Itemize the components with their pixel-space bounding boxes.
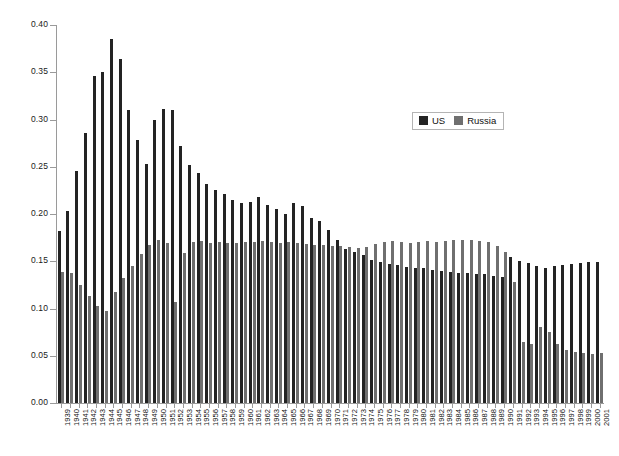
bar-russia-1988 <box>487 242 490 403</box>
x-axis-tick-label-1972: 1972 <box>351 409 359 426</box>
bar-group <box>58 25 67 403</box>
bar-us-1974 <box>362 255 365 403</box>
bar-group <box>579 25 588 403</box>
x-axis-tick-label-1965: 1965 <box>290 409 298 426</box>
bar-us-2000 <box>587 262 590 403</box>
bar-group <box>336 25 345 403</box>
bar-us-1965 <box>284 214 287 403</box>
bar-us-1981 <box>422 268 425 403</box>
y-axis-tick-label: 0.15 <box>0 256 48 266</box>
bar-russia-1946 <box>122 278 125 403</box>
x-axis-tick <box>400 404 401 408</box>
bar-russia-1948 <box>140 254 143 403</box>
legend-label-us: US <box>432 116 445 126</box>
x-axis-tick-label-1996: 1996 <box>559 409 567 426</box>
bar-russia-1942 <box>88 296 91 403</box>
bar-us-1990 <box>501 277 504 403</box>
x-axis-tick <box>313 404 314 408</box>
x-axis-tick <box>261 404 262 408</box>
bar-russia-1940 <box>70 273 73 403</box>
bar-russia-1952 <box>174 302 177 403</box>
bar-group <box>440 25 449 403</box>
x-axis-tick <box>426 404 427 408</box>
bar-group <box>527 25 536 403</box>
x-axis-tick-label-1964: 1964 <box>281 409 289 426</box>
bar-us-1953 <box>179 146 182 403</box>
bar-group <box>179 25 188 403</box>
x-axis-tick <box>322 404 323 408</box>
y-axis-tick <box>50 72 56 73</box>
bar-us-1999 <box>579 263 582 403</box>
x-axis-tick <box>504 404 505 408</box>
bar-us-1949 <box>145 164 148 403</box>
x-axis-tick <box>582 404 583 408</box>
bar-group <box>431 25 440 403</box>
y-axis-tick-label-text: 0.05 <box>4 351 48 360</box>
bar-russia-1987 <box>478 241 481 403</box>
x-axis-tick-label-1984: 1984 <box>455 409 463 426</box>
bar-group <box>205 25 214 403</box>
x-axis-tick <box>495 404 496 408</box>
bar-russia-2001 <box>600 353 603 403</box>
bar-us-1942 <box>84 133 87 403</box>
x-axis-tick <box>61 404 62 408</box>
bar-russia-1984 <box>452 240 455 403</box>
bar-russia-1994 <box>539 327 542 403</box>
bar-group <box>414 25 423 403</box>
x-axis-tick <box>565 404 566 408</box>
y-axis-tick-label: 0.20 <box>0 209 48 219</box>
bar-group <box>275 25 284 403</box>
bar-russia-1950 <box>157 240 160 403</box>
legend-entry-russia: Russia <box>454 116 496 126</box>
bar-group <box>509 25 518 403</box>
bar-russia-1981 <box>426 241 429 403</box>
bar-russia-1965 <box>287 242 290 403</box>
bar-russia-1977 <box>391 241 394 403</box>
x-axis-tick-label-1951: 1951 <box>169 409 177 426</box>
bar-russia-1959 <box>235 243 238 403</box>
bar-us-1959 <box>231 200 234 403</box>
bar-group <box>171 25 180 403</box>
bar-us-1979 <box>405 267 408 403</box>
x-axis-tick-label-1942: 1942 <box>90 409 98 426</box>
x-axis-tick-label-1983: 1983 <box>446 409 454 426</box>
y-axis-tick-label: 0.10 <box>0 304 48 314</box>
bar-us-1956 <box>205 184 208 403</box>
y-axis-tick <box>50 261 56 262</box>
bar-us-1964 <box>275 209 278 403</box>
bar-russia-1945 <box>114 292 117 404</box>
bar-us-1988 <box>483 274 486 403</box>
bar-us-1961 <box>249 202 252 403</box>
x-axis-tick-label-1955: 1955 <box>203 409 211 426</box>
bar-group <box>214 25 223 403</box>
bar-us-1955 <box>197 173 200 403</box>
y-axis-tick <box>50 309 56 310</box>
x-axis-tick-label-1943: 1943 <box>99 409 107 426</box>
bar-us-1975 <box>370 260 373 403</box>
bar-group <box>188 25 197 403</box>
x-axis-tick-label-1969: 1969 <box>325 409 333 426</box>
x-axis-tick-label-1986: 1986 <box>472 409 480 426</box>
bar-group <box>84 25 93 403</box>
bar-russia-1941 <box>79 285 82 403</box>
bar-russia-1996 <box>556 344 559 403</box>
bar-us-1947 <box>127 110 130 403</box>
bar-group <box>110 25 119 403</box>
x-axis-tick <box>348 404 349 408</box>
bar-russia-1982 <box>435 242 438 403</box>
x-axis-tick-label-1950: 1950 <box>160 409 168 426</box>
x-axis-tick <box>96 404 97 408</box>
bar-russia-1960 <box>244 242 247 403</box>
bar-group <box>466 25 475 403</box>
bar-group <box>231 25 240 403</box>
bar-russia-1966 <box>296 243 299 403</box>
bar-russia-1939 <box>61 272 64 403</box>
x-axis-tick <box>157 404 158 408</box>
legend-swatch-russia <box>454 116 463 125</box>
x-axis-tick-label-1967: 1967 <box>307 409 315 426</box>
bar-group <box>449 25 458 403</box>
x-axis-tick <box>218 404 219 408</box>
x-axis-tick <box>522 404 523 408</box>
x-axis-tick <box>270 404 271 408</box>
bar-russia-1958 <box>226 243 229 403</box>
